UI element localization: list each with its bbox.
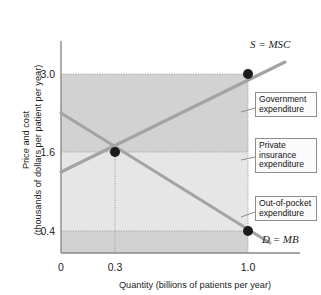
economics-figure: S = MSC D = MB 3.0 1.6 0.4 0 0.3 1.0 Pri…	[0, 0, 321, 295]
point-efficient-equilibrium	[110, 147, 120, 157]
demand-curve-label: D = MB	[261, 233, 299, 245]
legend-private-insurance-expenditure: Private insurance expenditure	[255, 138, 317, 173]
legend-government-expenditure: Government expenditure	[255, 92, 317, 117]
point-supply-at-one	[243, 69, 253, 79]
x-axis-title: Quantity (billions of patients per year)	[119, 280, 271, 290]
region-government-expenditure	[61, 74, 248, 152]
x-tick-1-0: 1.0	[241, 261, 256, 273]
legend-government-line2: expenditure	[259, 105, 313, 115]
supply-curve-label: S = MSC	[250, 38, 291, 50]
y-axis-title-line1: Price and cost	[21, 110, 31, 169]
point-marginal-benefit-at-one	[243, 226, 253, 236]
legend-oop-line2: expenditure	[259, 209, 313, 219]
legend-out-of-pocket-expenditure: Out-of-pocket expenditure	[255, 196, 317, 221]
legend-private-line3: expenditure	[259, 160, 313, 170]
region-out-of-pocket-expenditure	[61, 231, 248, 253]
y-axis-title-line2: (thousands of dollars per patient per ye…	[33, 65, 43, 236]
x-tick-0: 0	[58, 261, 64, 273]
x-tick-0-3: 0.3	[108, 261, 123, 273]
region-private-insurance-expenditure	[61, 152, 248, 231]
